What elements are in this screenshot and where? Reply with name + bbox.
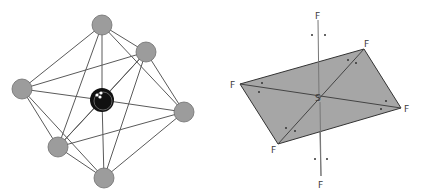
- label-f-top: F: [315, 11, 320, 21]
- central-atom: [90, 88, 114, 112]
- label-f-top-right: F: [364, 39, 369, 49]
- atom-left: [12, 79, 32, 99]
- figure-canvas: F F F F F F S: [0, 0, 421, 196]
- sf6-diagram: F F F F F F S: [230, 11, 409, 190]
- label-f-bottom-left: F: [271, 145, 276, 155]
- atom-lower-left: [48, 137, 68, 157]
- label-f-right: F: [404, 104, 409, 114]
- label-f-bottom: F: [318, 180, 323, 190]
- atom-right: [174, 102, 194, 122]
- octahedron-model: [12, 15, 194, 188]
- atom-top: [92, 15, 112, 35]
- atom-bottom: [94, 168, 114, 188]
- label-s-center: S: [315, 93, 321, 103]
- atom-upper-right: [136, 42, 156, 62]
- label-f-left: F: [230, 80, 235, 90]
